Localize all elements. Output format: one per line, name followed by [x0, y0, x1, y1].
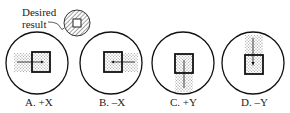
- panel-d-diagram: [222, 32, 284, 94]
- panel-a-label: A. +X: [25, 96, 53, 108]
- panel-a-diagram: [6, 32, 68, 94]
- figure: Desired result A. +X B. –X C. +Y D. –Y: [0, 0, 290, 113]
- callout-line-2: result: [22, 18, 56, 30]
- panel-b-diagram: [80, 32, 142, 94]
- panel-c-diagram: [152, 32, 214, 94]
- panel-b-label: B. –X: [99, 96, 125, 108]
- panel-d-label: D. –Y: [241, 96, 268, 108]
- callout-line-1: Desired: [22, 6, 56, 18]
- callout-label: Desired result: [22, 6, 56, 30]
- panel-c-label: C. +Y: [170, 96, 197, 108]
